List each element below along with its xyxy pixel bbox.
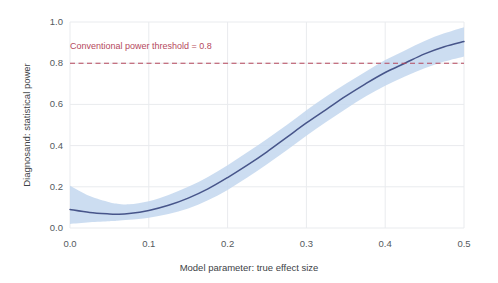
confidence-ribbon xyxy=(70,27,464,224)
y-tick-label: 1.0 xyxy=(37,16,63,27)
y-tick-label: 0.2 xyxy=(37,181,63,192)
x-tick-label: 0.0 xyxy=(55,238,85,249)
y-axis-title: Diagnosand: statistical power xyxy=(21,22,32,228)
y-tick-label: 0.6 xyxy=(37,98,63,109)
x-tick-label: 0.4 xyxy=(370,238,400,249)
y-tick-label: 0.8 xyxy=(37,57,63,68)
x-tick-label: 0.2 xyxy=(213,238,243,249)
x-tick-label: 0.3 xyxy=(291,238,321,249)
y-tick-label: 0.4 xyxy=(37,140,63,151)
x-tick-label: 0.5 xyxy=(449,238,479,249)
x-tick-label: 0.1 xyxy=(134,238,164,249)
chart-figure: 0.00.20.40.60.81.0 0.00.10.20.30.40.5 Di… xyxy=(0,0,498,283)
x-axis-title: Model parameter: true effect size xyxy=(0,262,498,273)
y-tick-label: 0.0 xyxy=(37,222,63,233)
power-threshold-annotation-label: Conventional power threshold = 0.8 xyxy=(70,41,212,51)
